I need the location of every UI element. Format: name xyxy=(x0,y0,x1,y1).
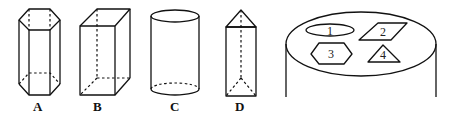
geometry-diagram: A B C D 1 2 xyxy=(0,0,452,115)
solid-c-cylinder: C xyxy=(151,10,199,114)
label-a: A xyxy=(33,99,43,114)
label-b: B xyxy=(93,99,102,114)
solid-a-hexagonal-prism: A xyxy=(19,9,60,114)
solid-b-rectangular-prism: B xyxy=(80,9,130,114)
solid-d-triangular-prism: D xyxy=(226,10,256,114)
shape-1-label: 1 xyxy=(327,24,333,38)
label-c: C xyxy=(170,99,179,114)
cylinder-top-with-shapes: 1 2 3 4 xyxy=(286,12,436,97)
shape-4-label: 4 xyxy=(380,48,386,62)
diagram-svg: A B C D 1 2 xyxy=(0,0,452,115)
shape-2-label: 2 xyxy=(380,25,386,39)
label-d: D xyxy=(235,99,244,114)
shape-3-label: 3 xyxy=(328,47,334,61)
